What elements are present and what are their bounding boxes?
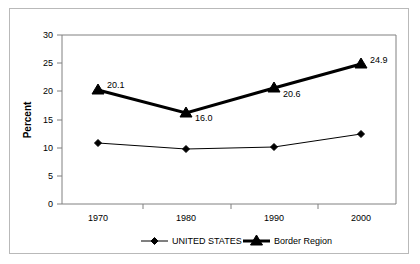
y-axis-ticks: [57, 35, 62, 204]
data-point-us-1980: [183, 146, 190, 153]
legend-label-united-states: UNITED STATES: [172, 236, 242, 246]
y-tick-label-30: 30: [43, 30, 53, 40]
legend-item-united-states[interactable]: UNITED STATES: [141, 236, 242, 246]
data-point-border-2000: [355, 58, 367, 68]
y-axis-title: Percent: [22, 101, 33, 138]
chart-legend: UNITED STATES Border Region: [141, 235, 332, 246]
line-chart: 0 5 10 15 20 25 30 Percent 1970 1980 199…: [0, 0, 420, 264]
legend-item-border-region[interactable]: Border Region: [243, 235, 332, 246]
data-label-border-2000: 24.9: [370, 55, 388, 65]
x-axis-ticks: [143, 204, 318, 209]
y-tick-label-20: 20: [43, 86, 53, 96]
x-tick-label-2000: 2000: [351, 213, 371, 223]
legend-marker-diamond-icon: [151, 238, 158, 245]
y-tick-label-0: 0: [48, 199, 53, 209]
data-point-us-1990: [271, 144, 278, 151]
x-tick-label-1980: 1980: [176, 213, 196, 223]
x-tick-label-1970: 1970: [88, 213, 108, 223]
chart-root: 0 5 10 15 20 25 30 Percent 1970 1980 199…: [0, 0, 420, 264]
data-point-border-1970: [92, 84, 104, 94]
series-line-border-region: [98, 64, 361, 113]
plot-area-frame: [62, 35, 396, 204]
series-united-states: [95, 131, 365, 153]
data-label-border-1980: 16.0: [195, 113, 213, 123]
y-tick-label-10: 10: [43, 143, 53, 153]
y-tick-label-25: 25: [43, 58, 53, 68]
legend-label-border-region: Border Region: [274, 236, 332, 246]
data-label-border-1970: 20.1: [107, 80, 125, 90]
series-line-united-states: [98, 134, 361, 149]
data-point-us-1970: [95, 140, 102, 147]
data-point-us-2000: [358, 131, 365, 138]
data-label-border-1990: 20.6: [283, 89, 301, 99]
x-tick-label-1990: 1990: [264, 213, 284, 223]
y-tick-label-5: 5: [48, 171, 53, 181]
series-border-region: [92, 58, 367, 117]
y-tick-label-15: 15: [43, 115, 53, 125]
